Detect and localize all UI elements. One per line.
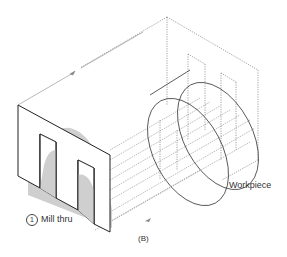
- figure-caption: (B): [138, 234, 149, 243]
- mill-thru-label: 1Mill thru: [26, 214, 73, 226]
- workpiece-cylinder: [131, 69, 275, 219]
- tool-path-lines: [95, 98, 255, 230]
- step-number-badge: 1: [26, 214, 38, 226]
- arrow-icon: [70, 71, 75, 75]
- slot-projections: [160, 54, 236, 180]
- mill-thru-text: Mill thru: [41, 214, 73, 224]
- front-plate: [18, 105, 110, 232]
- workpiece-label: Workpiece: [229, 180, 271, 190]
- feed-direction-line: [18, 32, 143, 105]
- bottom-arrow: [145, 218, 151, 222]
- arrow-icon: [145, 218, 151, 222]
